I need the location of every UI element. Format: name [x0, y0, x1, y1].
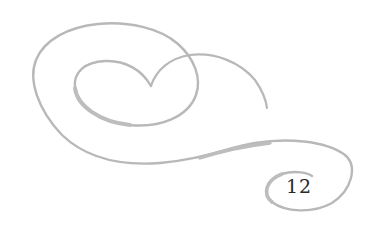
swirl-flourish-icon — [0, 0, 366, 232]
page-number: 12 — [281, 175, 317, 197]
page: 12 — [0, 0, 366, 232]
